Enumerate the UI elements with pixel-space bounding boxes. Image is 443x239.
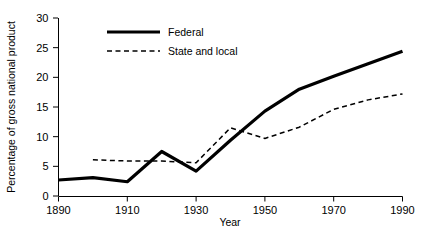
chart-canvas: 051015202530 189019101930195019701990 Fe… — [0, 0, 443, 239]
x-tick-label: 1950 — [253, 204, 277, 216]
plot-series — [59, 51, 403, 182]
legend-label-state-and-local: State and local — [168, 45, 237, 57]
x-axis: 189019101930195019701990 — [46, 197, 414, 217]
x-axis-title: Year — [219, 216, 241, 228]
x-axis-tick-labels: 189019101930195019701990 — [46, 204, 414, 216]
y-tick-label: 5 — [42, 160, 48, 172]
x-tick-label: 1910 — [115, 204, 139, 216]
y-axis-title: Percentage of gross national product — [5, 21, 17, 193]
x-tick-label: 1990 — [390, 204, 414, 216]
y-tick-label: 30 — [36, 12, 48, 24]
x-tick-label: 1970 — [321, 204, 345, 216]
series-line-state-and-local — [93, 94, 403, 163]
y-tick-label: 15 — [36, 101, 48, 113]
y-tick-label: 10 — [36, 131, 48, 143]
x-tick-label: 1890 — [46, 204, 70, 216]
x-axis-ticks — [59, 197, 403, 202]
y-tick-label: 20 — [36, 71, 48, 83]
y-tick-label: 25 — [36, 42, 48, 54]
legend-label-federal: Federal — [168, 26, 204, 38]
line-chart: 051015202530 189019101930195019701990 Fe… — [0, 0, 443, 239]
y-axis: 051015202530 — [36, 12, 58, 202]
y-tick-label: 0 — [42, 190, 48, 202]
x-tick-label: 1930 — [184, 204, 208, 216]
series-line-federal — [59, 51, 403, 182]
legend: Federal State and local — [107, 26, 237, 57]
y-axis-tick-labels: 051015202530 — [36, 12, 48, 202]
y-axis-ticks — [53, 18, 58, 196]
